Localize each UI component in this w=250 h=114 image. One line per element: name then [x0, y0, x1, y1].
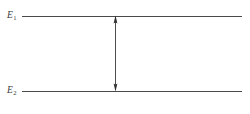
energy-level-line-upper [22, 16, 242, 17]
energy-level-diagram: E1 E2 [0, 0, 250, 114]
level-label-upper: E1 [7, 11, 16, 21]
level-label-lower-subscript: 2 [13, 89, 16, 96]
double-headed-transition-arrow-icon [111, 15, 120, 92]
level-label-upper-subscript: 1 [13, 14, 16, 21]
level-label-lower: E2 [7, 86, 16, 96]
energy-level-line-lower [22, 91, 242, 92]
